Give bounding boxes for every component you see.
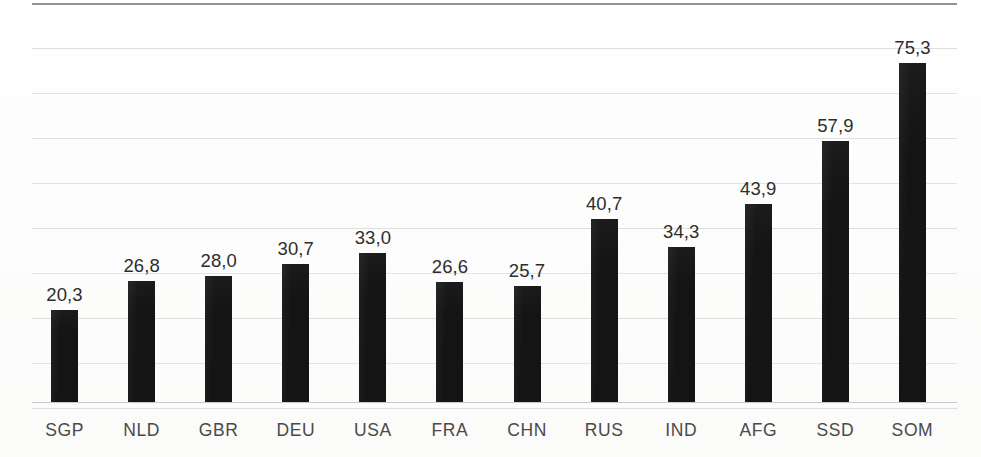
x-axis-label-fra: FRA	[432, 420, 469, 441]
bar-usa[interactable]	[359, 253, 386, 402]
bar-ind[interactable]	[668, 247, 695, 402]
bar-rus[interactable]	[591, 219, 618, 402]
gridline	[32, 183, 957, 184]
x-axis-label-usa: USA	[354, 420, 392, 441]
gridline	[32, 363, 957, 364]
bar-som[interactable]	[899, 63, 926, 402]
bar-value-label-chn: 25,7	[509, 260, 545, 282]
bar-deu[interactable]	[282, 264, 309, 402]
bar-value-label-usa: 33,0	[355, 227, 391, 249]
bar-value-label-deu: 30,7	[278, 238, 314, 260]
x-axis-label-nld: NLD	[123, 420, 160, 441]
gridline	[32, 228, 957, 229]
x-axis-label-som: SOM	[892, 420, 934, 441]
x-axis-label-ind: IND	[665, 420, 697, 441]
bar-sgp[interactable]	[51, 310, 78, 402]
bar-ssd[interactable]	[822, 141, 849, 402]
x-axis-label-chn: CHN	[507, 420, 547, 441]
bar-chart: 20,326,828,030,733,026,625,740,734,343,9…	[0, 0, 981, 457]
x-axis-label-afg: AFG	[739, 420, 777, 441]
gridline	[32, 273, 957, 274]
x-axis-label-rus: RUS	[585, 420, 624, 441]
bar-value-label-ssd: 57,9	[817, 115, 853, 137]
bar-gbr[interactable]	[205, 276, 232, 402]
bar-value-label-sgp: 20,3	[46, 284, 82, 306]
bar-afg[interactable]	[745, 204, 772, 402]
x-axis-label-deu: DEU	[276, 420, 315, 441]
x-axis-label-sgp: SGP	[45, 420, 84, 441]
bar-value-label-fra: 26,6	[432, 256, 468, 278]
bar-nld[interactable]	[128, 281, 155, 402]
plot-area: 20,326,828,030,733,026,625,740,734,343,9…	[0, 0, 981, 457]
bar-value-label-rus: 40,7	[586, 193, 622, 215]
gridline	[32, 93, 957, 94]
gridline	[32, 48, 957, 49]
bar-value-label-som: 75,3	[894, 37, 930, 59]
bar-value-label-gbr: 28,0	[200, 250, 236, 272]
bar-fra[interactable]	[436, 282, 463, 402]
gridline	[32, 318, 957, 319]
x-axis-label-ssd: SSD	[816, 420, 854, 441]
x-axis-label-gbr: GBR	[199, 420, 239, 441]
bar-value-label-afg: 43,9	[740, 178, 776, 200]
x-axis-baseline	[32, 402, 957, 403]
bar-chn[interactable]	[514, 286, 541, 402]
gridline	[32, 408, 957, 409]
gridline	[32, 138, 957, 139]
bar-value-label-ind: 34,3	[663, 221, 699, 243]
bar-value-label-nld: 26,8	[123, 255, 159, 277]
